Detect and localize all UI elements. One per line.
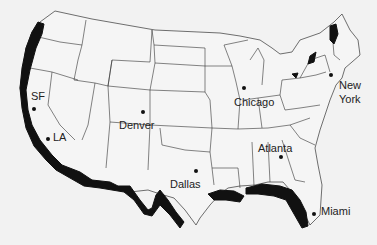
city-label-la: LA: [53, 131, 66, 143]
city-dot-icon: [328, 72, 334, 78]
city-label-miami: Miami: [321, 205, 350, 217]
us-outline: [20, 11, 360, 225]
city-dot-icon: [278, 154, 284, 160]
city-label-denver: Denver: [119, 119, 154, 131]
city-dot-icon: [193, 168, 199, 174]
city-label-sf: SF: [31, 90, 45, 102]
city-label-dallas: Dallas: [170, 178, 201, 190]
city-label-new-york-line2: York: [339, 93, 361, 105]
city-dot-icon: [241, 85, 247, 91]
city-dot-icon: [311, 211, 317, 217]
city-dot-icon: [45, 136, 51, 142]
city-dot-icon: [140, 109, 146, 115]
city-label-chicago: Chicago: [234, 96, 274, 108]
city-label-new-york-line1: New: [339, 79, 361, 91]
city-label-atlanta: Atlanta: [258, 142, 292, 154]
city-dot-icon: [31, 106, 37, 112]
